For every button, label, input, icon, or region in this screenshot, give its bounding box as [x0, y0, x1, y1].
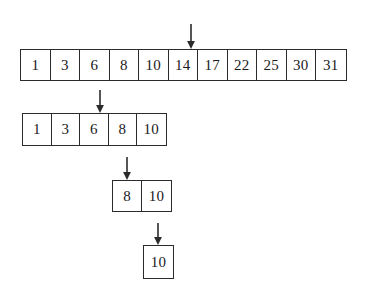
- array-cell-pointed[interactable]: 14: [169, 50, 199, 80]
- array-cell[interactable]: 3: [52, 114, 81, 145]
- array-cell[interactable]: 10: [137, 114, 166, 145]
- array-row-4: 10: [143, 245, 174, 279]
- array-cell-pointed[interactable]: 6: [80, 114, 109, 145]
- array-row-3: 810: [112, 180, 172, 212]
- array-cell[interactable]: 17: [198, 50, 228, 80]
- array-cell[interactable]: 22: [228, 50, 258, 80]
- array-cell[interactable]: 6: [80, 50, 110, 80]
- array-cell[interactable]: 8: [109, 114, 138, 145]
- array-cell[interactable]: 1: [23, 114, 52, 145]
- pointer-arrow-row-3: [121, 157, 133, 180]
- array-cell[interactable]: 25: [257, 50, 287, 80]
- array-cell-pointed[interactable]: 10: [144, 246, 173, 278]
- binary-search-diagram: 13681014172225303113681081010: [0, 0, 367, 294]
- pointer-arrow-row-2: [94, 90, 106, 113]
- array-cell[interactable]: 1: [21, 50, 51, 80]
- array-cell[interactable]: 10: [139, 50, 169, 80]
- pointer-arrow-row-4: [152, 223, 164, 245]
- array-row-1: 136810141722253031: [20, 49, 347, 81]
- array-cell[interactable]: 30: [287, 50, 317, 80]
- array-row-2: 136810: [22, 113, 167, 146]
- pointer-arrow-row-1: [185, 24, 197, 49]
- array-cell[interactable]: 3: [51, 50, 81, 80]
- array-cell[interactable]: 31: [316, 50, 346, 80]
- array-cell[interactable]: 10: [142, 181, 171, 211]
- array-cell[interactable]: 8: [110, 50, 140, 80]
- array-cell-pointed[interactable]: 8: [113, 181, 142, 211]
